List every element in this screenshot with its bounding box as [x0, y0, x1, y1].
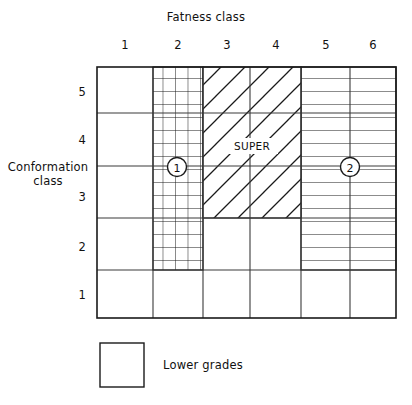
marker-2-label: 2 [347, 162, 354, 175]
super-region-label: SUPER [226, 138, 278, 154]
grid-canvas: 1 2 SUPER [0, 0, 412, 405]
marker-2: 2 [341, 158, 360, 177]
legend-label-lower-grades: Lower grades [163, 358, 243, 372]
super-label-text: SUPER [234, 140, 270, 152]
marker-1: 1 [168, 158, 187, 177]
grading-grid-diagram: Fatness class Conformation class 1 2 3 4… [0, 0, 412, 405]
legend-swatch-lower-grades [100, 343, 144, 387]
marker-1-label: 1 [174, 162, 181, 175]
